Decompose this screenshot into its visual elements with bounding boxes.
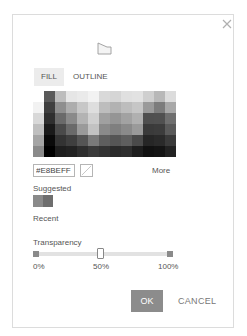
color-swatch[interactable]	[77, 91, 88, 102]
color-swatch[interactable]	[110, 91, 121, 102]
tick-100: 100%	[158, 262, 178, 271]
color-swatch[interactable]	[44, 146, 55, 157]
color-swatch[interactable]	[121, 124, 132, 135]
recent-label: Recent	[33, 214, 58, 223]
hex-color-input[interactable]	[33, 164, 75, 177]
color-swatch[interactable]	[66, 146, 77, 157]
transparency-label: Transparency	[33, 238, 82, 247]
color-swatch[interactable]	[121, 91, 132, 102]
color-swatch[interactable]	[165, 146, 176, 157]
color-swatch[interactable]	[143, 146, 154, 157]
color-swatch[interactable]	[44, 102, 55, 113]
color-swatch[interactable]	[33, 135, 44, 146]
color-swatch[interactable]	[165, 124, 176, 135]
color-swatch[interactable]	[88, 146, 99, 157]
slider-min-marker	[33, 251, 39, 257]
suggested-swatch[interactable]	[33, 195, 43, 207]
transparency-slider-thumb[interactable]	[97, 248, 104, 259]
color-swatch[interactable]	[132, 113, 143, 124]
color-swatch[interactable]	[44, 113, 55, 124]
color-swatch[interactable]	[99, 91, 110, 102]
color-swatch[interactable]	[132, 124, 143, 135]
color-swatch[interactable]	[77, 102, 88, 113]
color-swatch[interactable]	[121, 146, 132, 157]
close-icon[interactable]	[222, 19, 232, 29]
color-swatch[interactable]	[77, 113, 88, 124]
color-swatch[interactable]	[132, 91, 143, 102]
color-swatch[interactable]	[132, 102, 143, 113]
color-swatch[interactable]	[132, 146, 143, 157]
suggested-swatch[interactable]	[43, 195, 53, 207]
color-swatch[interactable]	[154, 135, 165, 146]
color-swatch[interactable]	[55, 91, 66, 102]
color-swatch[interactable]	[44, 135, 55, 146]
color-swatch[interactable]	[110, 113, 121, 124]
color-swatch[interactable]	[110, 146, 121, 157]
color-swatch[interactable]	[110, 135, 121, 146]
color-swatch[interactable]	[33, 113, 44, 124]
color-swatch[interactable]	[121, 113, 132, 124]
color-swatch[interactable]	[77, 135, 88, 146]
color-swatch[interactable]	[165, 102, 176, 113]
color-swatch[interactable]	[33, 146, 44, 157]
color-swatch[interactable]	[110, 124, 121, 135]
color-swatch[interactable]	[154, 146, 165, 157]
color-swatch[interactable]	[88, 113, 99, 124]
color-swatch[interactable]	[66, 91, 77, 102]
color-swatch[interactable]	[55, 124, 66, 135]
shape-preview-icon	[97, 42, 113, 55]
tab-outline[interactable]: OUTLINE	[66, 68, 115, 86]
color-swatch[interactable]	[121, 102, 132, 113]
color-swatch[interactable]	[121, 135, 132, 146]
color-swatch[interactable]	[154, 91, 165, 102]
ok-button[interactable]: OK	[131, 290, 163, 312]
no-color-icon[interactable]	[80, 164, 93, 177]
color-swatch[interactable]	[33, 102, 44, 113]
color-swatch[interactable]	[143, 124, 154, 135]
color-swatch[interactable]	[143, 102, 154, 113]
color-swatch[interactable]	[165, 135, 176, 146]
color-swatch[interactable]	[88, 91, 99, 102]
color-swatch[interactable]	[44, 124, 55, 135]
cancel-button[interactable]: CANCEL	[178, 290, 216, 312]
color-swatch[interactable]	[44, 91, 55, 102]
color-swatch[interactable]	[99, 135, 110, 146]
color-swatch[interactable]	[154, 124, 165, 135]
color-swatch[interactable]	[99, 102, 110, 113]
tick-0: 0%	[33, 262, 45, 271]
color-swatch[interactable]	[110, 102, 121, 113]
tab-fill[interactable]: FILL	[34, 68, 64, 86]
color-swatch[interactable]	[66, 102, 77, 113]
color-swatch[interactable]	[99, 146, 110, 157]
color-swatch[interactable]	[132, 135, 143, 146]
suggested-label: Suggested	[33, 184, 71, 193]
color-swatch[interactable]	[33, 124, 44, 135]
color-swatch[interactable]	[66, 124, 77, 135]
color-swatch[interactable]	[154, 113, 165, 124]
color-swatch[interactable]	[66, 113, 77, 124]
slider-max-marker	[167, 251, 173, 257]
color-swatch[interactable]	[55, 135, 66, 146]
color-swatch[interactable]	[88, 124, 99, 135]
color-swatch[interactable]	[88, 135, 99, 146]
color-swatch[interactable]	[88, 102, 99, 113]
color-swatch[interactable]	[66, 135, 77, 146]
color-swatch[interactable]	[165, 113, 176, 124]
color-swatch[interactable]	[77, 124, 88, 135]
color-swatch[interactable]	[55, 113, 66, 124]
color-swatch[interactable]	[99, 124, 110, 135]
color-swatch[interactable]	[55, 102, 66, 113]
color-swatch[interactable]	[154, 102, 165, 113]
color-swatch[interactable]	[33, 91, 44, 102]
color-swatch[interactable]	[55, 146, 66, 157]
color-swatch[interactable]	[77, 146, 88, 157]
color-swatch[interactable]	[99, 113, 110, 124]
more-colors-link[interactable]: More	[152, 166, 170, 175]
tick-50: 50%	[93, 262, 109, 271]
color-swatch[interactable]	[143, 113, 154, 124]
color-swatch[interactable]	[143, 135, 154, 146]
color-swatch[interactable]	[165, 91, 176, 102]
color-swatch[interactable]	[143, 91, 154, 102]
